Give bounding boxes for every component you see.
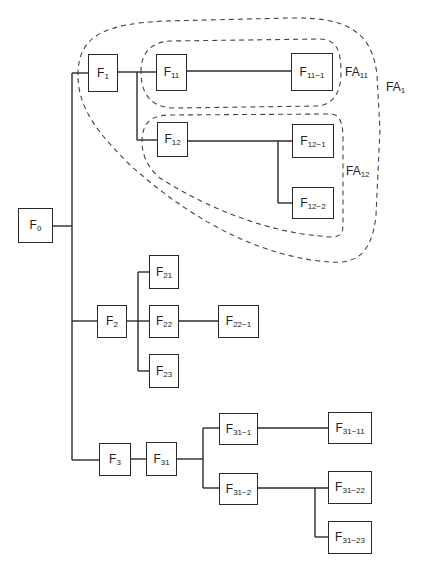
area-boundary-fa1 [78, 18, 380, 262]
node-label: F21 [156, 265, 172, 280]
node-f2: F2 [97, 305, 127, 338]
node-label: F11 [164, 65, 180, 80]
node-f31-11: F31−11 [328, 412, 372, 444]
area-label-fa1: FA1 [386, 80, 405, 95]
node-f31-23: F31−23 [328, 521, 372, 554]
node-f21: F21 [149, 255, 179, 289]
node-label: F11−1 [300, 65, 325, 80]
node-f31-2: F31−2 [219, 473, 258, 505]
node-label: F31 [153, 452, 169, 467]
area-label-fa12: FA12 [346, 164, 370, 179]
node-label: F12−2 [300, 196, 325, 211]
node-f12-2: F12−2 [292, 187, 334, 219]
node-f0: F0 [18, 208, 53, 243]
node-label: F3 [109, 452, 121, 467]
node-label: F2 [106, 314, 118, 329]
node-label: F31−2 [226, 482, 251, 497]
node-f11-1: F11−1 [291, 53, 333, 91]
node-f22-1: F22−1 [218, 305, 259, 338]
node-label: F12 [164, 132, 180, 147]
node-f3: F3 [99, 443, 131, 476]
node-f12: F12 [157, 122, 188, 157]
node-label: F12−1 [300, 134, 325, 149]
area-label-fa11: FA11 [345, 65, 368, 80]
node-f31: F31 [146, 442, 177, 476]
node-label: F31−22 [335, 480, 365, 495]
node-label: F31−1 [226, 422, 251, 437]
node-label: F31−11 [335, 421, 364, 436]
node-f23: F23 [149, 354, 179, 388]
node-label: F22−1 [226, 314, 251, 329]
node-f22: F22 [149, 305, 179, 338]
node-label: F23 [156, 364, 172, 379]
node-label: F1 [97, 66, 109, 81]
node-f31-22: F31−22 [328, 471, 372, 504]
node-label: F22 [156, 314, 172, 329]
node-f11: F11 [156, 54, 187, 91]
node-f1: F1 [88, 54, 118, 92]
node-f12-1: F12−1 [292, 124, 334, 158]
node-label: F31−23 [335, 530, 365, 545]
node-label: F0 [30, 218, 42, 233]
node-f31-1: F31−1 [219, 413, 258, 445]
